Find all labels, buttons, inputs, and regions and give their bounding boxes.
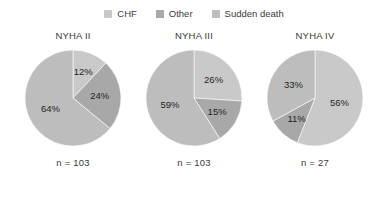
pie-chart-row: NYHA II12%24%64%n = 103NYHA III26%15%59%… (0, 30, 388, 203)
legend-item-label: Other (169, 9, 193, 19)
pie-chart-cell: NYHA II12%24%64%n = 103 (14, 30, 132, 168)
pie-graphic: 12%24%64% (23, 48, 123, 148)
legend-item-label: Sudden death (225, 9, 284, 19)
pie-svg (265, 48, 365, 148)
pie-chart-title: NYHA III (175, 30, 213, 41)
pie-slice (194, 50, 242, 101)
legend-item: Other (156, 9, 193, 19)
legend-item: CHF (104, 9, 137, 19)
pie-chart-cell: NYHA III26%15%59%n = 103 (135, 30, 253, 168)
pie-graphic: 56%11%33% (265, 48, 365, 148)
pie-chart-title: NYHA IV (296, 30, 335, 41)
legend-item: Sudden death (212, 9, 284, 19)
pie-chart-title: NYHA II (55, 30, 90, 41)
pie-chart-sample-size: n = 103 (56, 157, 89, 168)
legend-swatch-other (156, 10, 164, 18)
pie-svg (23, 48, 123, 148)
legend-swatch-chf (104, 10, 112, 18)
chart-legend: CHFOtherSudden death (0, 9, 388, 19)
pie-chart-cell: NYHA IV56%11%33%n = 27 (256, 30, 374, 168)
pie-graphic: 26%15%59% (144, 48, 244, 148)
legend-item-label: CHF (117, 9, 137, 19)
pie-chart-figure: CHFOtherSudden death NYHA II12%24%64%n =… (0, 0, 388, 203)
pie-svg (144, 48, 244, 148)
legend-swatch-sudden-death (212, 10, 220, 18)
pie-chart-sample-size: n = 27 (301, 157, 329, 168)
pie-chart-sample-size: n = 103 (177, 157, 210, 168)
